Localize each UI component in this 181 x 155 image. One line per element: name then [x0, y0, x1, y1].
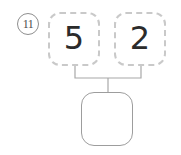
parts-bracket-path — [75, 66, 141, 78]
problem-number-label: 11 — [23, 18, 34, 30]
part-box-left[interactable]: 5 — [48, 12, 100, 66]
problem-number-badge: 11 — [17, 13, 39, 35]
part-left-value: 5 — [64, 22, 84, 54]
number-bond-worksheet: 11 5 2 — [0, 0, 181, 155]
whole-box-answer[interactable] — [81, 92, 133, 146]
part-right-value: 2 — [130, 22, 150, 54]
part-box-right[interactable]: 2 — [114, 12, 166, 66]
